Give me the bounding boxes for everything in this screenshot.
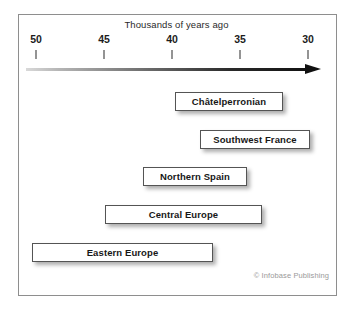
timeline-bar: Central Europe xyxy=(105,205,262,224)
timeline-bar-label: Northern Spain xyxy=(160,171,230,182)
axis-tick-mark xyxy=(308,50,309,59)
axis-tick-label: 35 xyxy=(234,33,246,45)
timeline-bar-label: Châtelperronian xyxy=(192,96,266,107)
timeline-bar: Eastern Europe xyxy=(32,243,213,262)
timeline-bar-label: Southwest France xyxy=(213,134,296,145)
timeline-bar: Châtelperronian xyxy=(175,92,283,111)
timeline-bar: Southwest France xyxy=(200,130,310,149)
copyright-credit: © Infobase Publishing xyxy=(254,271,329,280)
axis-tick-mark xyxy=(240,50,241,59)
timeline-bar-label: Central Europe xyxy=(149,209,219,220)
axis-tick-mark xyxy=(104,50,105,59)
axis-arrow-head-icon xyxy=(305,64,321,74)
time-axis-arrow xyxy=(26,66,321,73)
axis-tick-mark xyxy=(36,50,37,59)
timeline-figure: Thousands of years ago 5045403530 Châtel… xyxy=(0,0,355,309)
axis-tick-mark xyxy=(172,50,173,59)
axis-tick-label: 50 xyxy=(30,33,42,45)
axis-tick-label: 40 xyxy=(166,33,178,45)
axis-title: Thousands of years ago xyxy=(0,19,355,30)
axis-tick-label: 45 xyxy=(98,33,110,45)
axis-title-text: Thousands of years ago xyxy=(124,19,228,30)
timeline-bar-label: Eastern Europe xyxy=(87,247,159,258)
timeline-bar: Northern Spain xyxy=(143,167,247,186)
axis-tick-label: 30 xyxy=(302,33,314,45)
axis-arrow-shaft xyxy=(26,68,310,71)
